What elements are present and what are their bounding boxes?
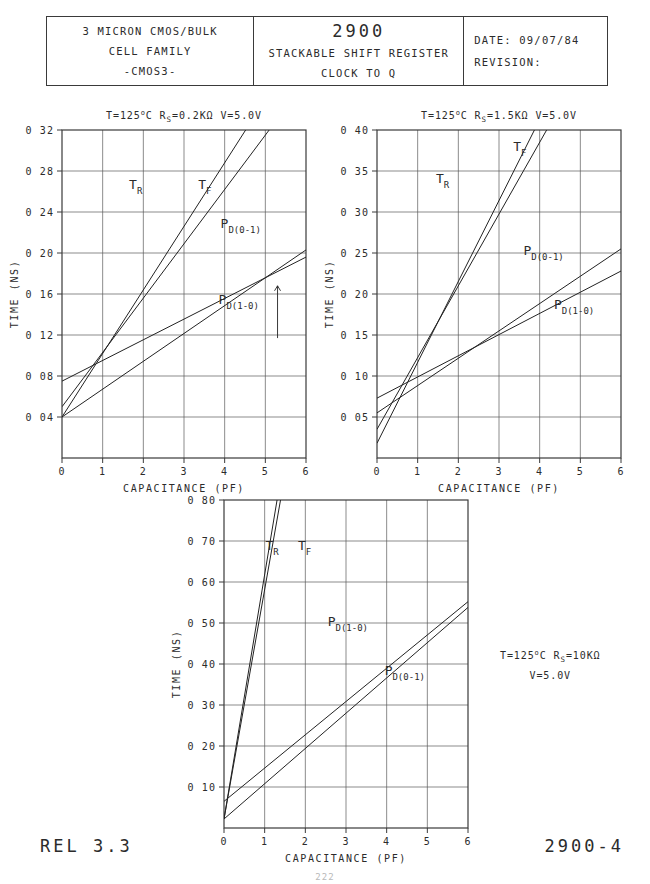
chart-rs-10k-yaxis-label: TIME (NS) — [171, 630, 182, 699]
condition-note-rs-10k: T=125oC RS=10KΩ V=5.0V — [500, 645, 601, 684]
process-line: 3 MICRON CMOS/BULK — [82, 21, 217, 41]
drawing-number-label: 2900-4 — [545, 836, 624, 856]
chart-rs-10k-ytick-label: 0 70 — [188, 536, 216, 547]
chart-rs-0p2k-condition-title: T=125oC RS=0.2KΩ V=5.0V — [106, 109, 262, 124]
chart-rs-10k-xtick-label: 4 — [383, 836, 390, 847]
chart-rs-0p2k-ytick-label: 0 16 — [26, 289, 54, 300]
chart-rs-0p2k-ytick-label: 0 28 — [26, 166, 54, 177]
revision-row: REVISION: — [474, 51, 542, 73]
condition-note-line2: V=5.0V — [500, 668, 601, 684]
chart-rs-1p5k-xtick-label: 3 — [495, 466, 502, 477]
chart-rs-1p5k-ytick-label: 0 30 — [341, 207, 369, 218]
chart-rs-0p2k-ytick-label: 0 32 — [26, 125, 54, 136]
chart-rs-1p5k-yaxis-label: TIME (NS) — [324, 260, 335, 329]
chart-rs-10k-xaxis-label: CAPACITANCE (PF) — [285, 853, 407, 864]
chart-rs-10k-ytick-label: 0 80 — [188, 495, 216, 506]
chart-rs-10k-xtick-label: 3 — [342, 836, 349, 847]
chart-rs-1p5k-ytick-label: 0 20 — [341, 289, 369, 300]
chart-rs-1p5k-annotation-TR: TR — [436, 171, 450, 190]
chart-rs-10k-ytick-label: 0 60 — [188, 577, 216, 588]
chart-rs-1p5k-annotation-TF: TF — [513, 139, 526, 158]
chart-rs-1p5k: T=125oC RS=1.5KΩ V=5.0V01234560 050 100 … — [315, 100, 645, 470]
chart-rs-10k-annotation-PD(0-1): PD(0-1) — [385, 663, 425, 682]
chart-rs-0p2k-ytick-label: 0 24 — [26, 207, 54, 218]
note-res: =10KΩ — [566, 650, 601, 661]
measurement-path: CLOCK TO Q — [321, 63, 396, 83]
chart-rs-1p5k-ytick-label: 0 25 — [341, 248, 369, 259]
chart-rs-1p5k-annotation-PD(1-0): PD(1-0) — [554, 297, 594, 316]
chart-rs-10k-ytick-label: 0 20 — [188, 741, 216, 752]
chart-rs-0p2k-yaxis-label: TIME (NS) — [9, 260, 20, 329]
chart-rs-10k-xtick-label: 1 — [261, 836, 268, 847]
title-block: 3 MICRON CMOS/BULK CELL FAMILY -CMOS3- 2… — [46, 16, 608, 86]
chart-rs-0p2k: T=125oC RS=0.2KΩ V=5.0V01234560 040 080 … — [0, 100, 330, 470]
release-label: REL 3.3 — [40, 836, 133, 856]
datasheet-page: 3 MICRON CMOS/BULK CELL FAMILY -CMOS3- 2… — [0, 0, 650, 884]
library-line: -CMOS3- — [124, 61, 177, 81]
chart-rs-0p2k-annotation-PD(0-1): PD(0-1) — [221, 216, 261, 235]
chart-rs-10k-ytick-label: 0 30 — [188, 700, 216, 711]
chart-rs-0p2k-ytick-label: 0 20 — [26, 248, 54, 259]
chart-rs-10k-xtick-label: 2 — [302, 836, 309, 847]
revision-label: REVISION: — [474, 56, 542, 68]
chart-rs-1p5k-annotation-PD(0-1): PD(0-1) — [523, 243, 563, 262]
chart-rs-10k-svg: 01234560 100 200 300 400 500 600 700 80C… — [162, 470, 492, 840]
chart-rs-10k-annotation-PD(1-0): PD(1-0) — [328, 614, 368, 633]
chart-rs-10k-xtick-label: 0 — [220, 836, 227, 847]
title-block-date-cell: DATE: 09/07/84 REVISION: — [464, 17, 607, 85]
chart-rs-1p5k-ytick-label: 0 10 — [341, 371, 369, 382]
chart-rs-1p5k-xtick-label: 4 — [536, 466, 543, 477]
condition-note-line1: T=125oC RS=10KΩ — [500, 645, 601, 668]
chart-rs-0p2k-xtick-label: 2 — [140, 466, 147, 477]
chart-rs-0p2k-svg: T=125oC RS=0.2KΩ V=5.0V01234560 040 080 … — [0, 100, 330, 470]
chart-rs-10k-ytick-label: 0 50 — [188, 618, 216, 629]
date-row: DATE: 09/07/84 — [474, 29, 579, 51]
chart-rs-0p2k-annotation-TR: TR — [129, 177, 143, 196]
chart-rs-1p5k-ytick-label: 0 35 — [341, 166, 369, 177]
chart-rs-1p5k-ytick-label: 0 40 — [341, 125, 369, 136]
chart-rs-10k-xtick-label: 6 — [464, 836, 471, 847]
chart-rs-0p2k-ytick-label: 0 08 — [26, 371, 54, 382]
chart-rs-1p5k-xtick-label: 5 — [577, 466, 584, 477]
family-line: CELL FAMILY — [109, 41, 192, 61]
part-description: STACKABLE SHIFT REGISTER — [268, 43, 449, 63]
title-block-family-cell: 3 MICRON CMOS/BULK CELL FAMILY -CMOS3- — [47, 17, 254, 85]
title-block-part-cell: 2900 STACKABLE SHIFT REGISTER CLOCK TO Q — [254, 17, 464, 85]
note-mid: C R — [540, 650, 561, 661]
page-number: 222 — [0, 872, 650, 882]
date-label: DATE: — [474, 34, 512, 46]
chart-rs-0p2k-ytick-label: 0 04 — [26, 412, 54, 423]
part-number: 2900 — [332, 20, 385, 43]
chart-rs-10k-xtick-label: 5 — [424, 836, 431, 847]
chart-rs-0p2k-xtick-label: 1 — [99, 466, 106, 477]
chart-rs-0p2k-ytick-label: 0 12 — [26, 330, 54, 341]
chart-rs-10k-ytick-label: 0 10 — [188, 782, 216, 793]
chart-rs-10k: 01234560 100 200 300 400 500 600 700 80C… — [162, 470, 492, 840]
chart-rs-1p5k-svg: T=125oC RS=1.5KΩ V=5.0V01234560 050 100 … — [315, 100, 645, 470]
chart-rs-0p2k-xtick-label: 0 — [58, 466, 65, 477]
chart-rs-1p5k-ytick-label: 0 15 — [341, 330, 369, 341]
chart-rs-1p5k-xtick-label: 6 — [617, 466, 624, 477]
chart-rs-1p5k-ytick-label: 0 05 — [341, 412, 369, 423]
date-value: 09/07/84 — [519, 34, 579, 46]
chart-rs-10k-ytick-label: 0 40 — [188, 659, 216, 670]
chart-rs-1p5k-condition-title: T=125oC RS=1.5KΩ V=5.0V — [421, 109, 577, 124]
note-temp: T=125 — [500, 650, 535, 661]
